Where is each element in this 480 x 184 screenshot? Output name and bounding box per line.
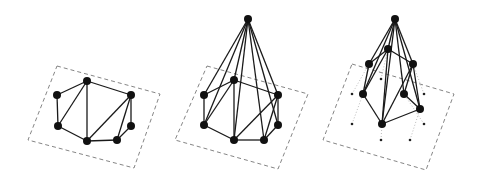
vertex-node <box>230 76 238 84</box>
vertex-node <box>200 121 208 129</box>
footprint-dot <box>351 123 354 126</box>
vertex-node <box>83 77 91 85</box>
vertex-node <box>409 60 417 68</box>
graph-edge <box>382 109 420 124</box>
dashed-plane-frame <box>28 66 160 168</box>
footprint-dot <box>380 139 383 142</box>
graph-edge <box>58 126 87 141</box>
vertex-node <box>83 137 91 145</box>
apex-edge <box>369 19 395 64</box>
vertex-node <box>416 105 424 113</box>
vertex-node <box>384 45 392 53</box>
vertex-node <box>200 91 208 99</box>
footprint-dot <box>409 139 412 142</box>
vertex-node <box>127 91 135 99</box>
vertex-node <box>274 91 282 99</box>
graph-edge <box>57 95 58 126</box>
vertex-node <box>365 60 373 68</box>
footprint-dot <box>423 123 426 126</box>
graph-edge <box>87 140 117 141</box>
apex-edge <box>234 19 248 80</box>
footprint-dot <box>423 93 426 96</box>
vertex-node <box>230 136 238 144</box>
footprint-dot <box>351 93 354 96</box>
graph-edge <box>87 81 131 95</box>
graph-edge <box>363 94 382 124</box>
panel-lifted-cone <box>323 15 454 170</box>
vertex-node <box>260 136 268 144</box>
apex-edge <box>248 19 264 140</box>
vertex-node <box>359 90 367 98</box>
graph-edge <box>204 125 234 140</box>
vertex-node <box>274 121 282 129</box>
vertex-node <box>54 122 62 130</box>
footprint-dot <box>380 78 383 81</box>
panel-planar-triangulation <box>28 66 160 168</box>
vertex-node <box>127 122 135 130</box>
diagram-canvas <box>0 0 480 184</box>
vertex-node <box>400 90 408 98</box>
projection-line <box>410 109 420 140</box>
vertex-node <box>53 91 61 99</box>
panel-cone-over-triangulation <box>175 15 308 169</box>
graph-edge <box>363 49 388 94</box>
vertex-node <box>113 136 121 144</box>
dashed-plane-frame <box>323 64 454 170</box>
apex-node <box>391 15 399 23</box>
vertex-node <box>378 120 386 128</box>
dashed-plane-frame <box>175 66 308 169</box>
projection-line <box>352 94 363 124</box>
apex-node <box>244 15 252 23</box>
